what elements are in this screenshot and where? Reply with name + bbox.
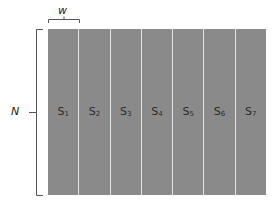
segment-column: S1 xyxy=(48,29,79,195)
segment-label: S6 xyxy=(204,105,234,118)
width-bracket xyxy=(49,17,80,24)
segment-grid: S1 S2 S3 S4 S5 S6 S7 xyxy=(48,29,266,195)
width-label: w xyxy=(58,4,67,17)
segment-label: S3 xyxy=(111,105,141,118)
segment-column: S3 xyxy=(111,29,142,195)
segment-column: S5 xyxy=(173,29,204,195)
segment-column: S7 xyxy=(236,29,266,195)
segment-label: S5 xyxy=(173,105,203,118)
segment-column: S4 xyxy=(142,29,173,195)
segment-label: S7 xyxy=(236,105,266,118)
segment-column: S2 xyxy=(79,29,110,195)
segmentation-diagram: w N S1 S2 S3 S4 S5 S6 S7 xyxy=(0,0,279,210)
segment-label: S4 xyxy=(142,105,172,118)
height-bracket xyxy=(29,30,43,196)
segment-label: S2 xyxy=(79,105,109,118)
segment-label: S1 xyxy=(48,105,78,118)
height-label: N xyxy=(11,105,19,118)
segment-column: S6 xyxy=(204,29,235,195)
